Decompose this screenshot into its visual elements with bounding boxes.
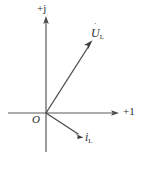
voltage-phasor-label: ˙ U L	[91, 27, 104, 41]
voltage-phasor-subscript: L	[100, 33, 104, 41]
voltage-phasor-symbol: ˙ U	[91, 27, 100, 39]
real-axis-label: +1	[123, 106, 135, 117]
current-phasor-line	[46, 113, 79, 134]
current-phasor-symbol: i	[85, 131, 88, 143]
current-phasor-label: i L	[85, 131, 93, 145]
current-phasor-letter: i	[85, 130, 88, 144]
current-phasor-arrowhead	[75, 134, 84, 139]
current-phasor-subscript: L	[88, 137, 92, 145]
phasor-diagram-canvas	[0, 0, 145, 170]
origin-label: O	[32, 114, 40, 125]
voltage-phasor-line	[46, 47, 89, 114]
voltage-phasor-dot-accent: ˙	[94, 22, 97, 31]
imaginary-axis-label: +j	[37, 3, 46, 14]
voltage-phasor-arrowhead	[84, 40, 92, 49]
